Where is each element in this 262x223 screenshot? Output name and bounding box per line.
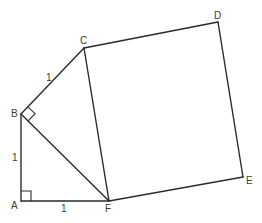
length-label-AB: 1 xyxy=(12,152,18,163)
vertex-label-B: B xyxy=(11,108,18,119)
vertex-label-E: E xyxy=(246,175,253,186)
vertex-label-D: D xyxy=(214,10,221,21)
segment-BF xyxy=(21,114,109,201)
segment-EF xyxy=(109,177,243,201)
right-angle-marker-A xyxy=(21,191,31,201)
segment-BC xyxy=(21,48,84,114)
length-label-BC: 1 xyxy=(46,72,52,83)
segment-DE xyxy=(218,22,243,177)
length-label-AF: 1 xyxy=(61,203,67,214)
vertex-label-C: C xyxy=(80,35,87,46)
geometry-diagram: A B C D E F 1 1 1 xyxy=(0,0,262,223)
right-angle-marker-B xyxy=(28,107,35,121)
segment-CF xyxy=(84,48,109,201)
segment-CD xyxy=(84,22,218,48)
vertex-label-F: F xyxy=(105,203,111,214)
vertex-label-A: A xyxy=(11,200,18,211)
